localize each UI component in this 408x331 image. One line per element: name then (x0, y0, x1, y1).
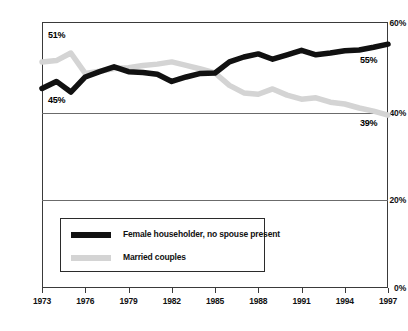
x-tick-mark (302, 288, 303, 293)
legend-label-female-householder: Female householder, no spouse present (123, 228, 280, 241)
x-tick-label: 1982 (152, 296, 192, 306)
x-tick-label: 1985 (195, 296, 235, 306)
x-tick-label: 1994 (325, 296, 365, 306)
x-tick-mark (42, 288, 43, 293)
x-tick-label: 1988 (238, 296, 278, 306)
legend-swatch-female-householder (71, 232, 111, 238)
x-tick-mark (258, 288, 259, 293)
x-tick-mark (388, 288, 389, 293)
gridline-40 (42, 113, 388, 114)
annotation-51-percent: 51% (48, 30, 65, 40)
gridline-20 (42, 200, 388, 201)
y-tick-label-20: 20% (370, 196, 406, 204)
annotation-55-percent: 55% (360, 55, 377, 65)
x-tick-mark (129, 288, 130, 293)
y-tick-label-60: 60% (370, 19, 406, 27)
annotation-39-percent: 39% (360, 118, 377, 128)
x-tick-mark (85, 288, 86, 293)
x-tick-mark (172, 288, 173, 293)
x-tick-label: 1976 (65, 296, 105, 306)
annotation-45-percent: 45% (48, 95, 65, 105)
x-tick-label: 1997 (368, 296, 408, 306)
legend: Female householder, no spouse present Ma… (60, 218, 265, 272)
x-tick-label: 1979 (109, 296, 149, 306)
x-tick-mark (215, 288, 216, 293)
y-tick-label-40: 40% (370, 109, 406, 117)
x-tick-label: 1973 (22, 296, 62, 306)
x-tick-label: 1991 (282, 296, 322, 306)
x-tick-mark (345, 288, 346, 293)
legend-swatch-married-couples (71, 255, 111, 261)
legend-label-married-couples: Married couples (123, 251, 186, 264)
